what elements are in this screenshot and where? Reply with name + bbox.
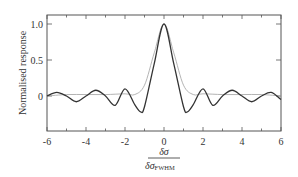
x-ticks: -6-4-20246 bbox=[43, 15, 284, 147]
x-axis-label-denominator: δσFWHM bbox=[145, 160, 175, 171]
x-tick-label: -2 bbox=[121, 136, 129, 147]
y-tick-label: 1.0 bbox=[31, 19, 44, 30]
x-tick-label: 2 bbox=[201, 136, 206, 147]
x-tick-label: -4 bbox=[82, 136, 90, 147]
x-tick-label: 6 bbox=[279, 136, 284, 147]
series-group bbox=[47, 24, 281, 113]
y-ticks: 00.51.0 bbox=[31, 19, 282, 102]
x-tick-label: 4 bbox=[240, 136, 245, 147]
plot-frame bbox=[47, 15, 281, 131]
y-tick-label: 0 bbox=[38, 91, 43, 102]
x-axis-label-numerator: δσ bbox=[159, 146, 170, 157]
y-axis-label: Normalised response bbox=[17, 30, 28, 115]
light-curve bbox=[47, 24, 281, 96]
y-tick-label: 0.5 bbox=[31, 55, 44, 66]
dark-curve bbox=[47, 24, 281, 113]
chart: -6-4-20246 00.51.0 Normalised response δ… bbox=[0, 0, 298, 177]
x-tick-label: -6 bbox=[43, 136, 51, 147]
